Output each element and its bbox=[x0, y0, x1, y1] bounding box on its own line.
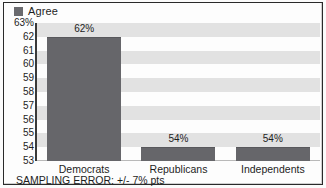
bar[interactable] bbox=[236, 147, 310, 161]
y-axis-tick-label: 58 bbox=[23, 87, 34, 97]
y-axis-tick-label: 62 bbox=[23, 32, 34, 42]
y-axis-tick-label: 56 bbox=[23, 115, 34, 125]
bars-layer: 62%54%54% bbox=[37, 23, 320, 161]
plot-wrapper: 63%62616059585756555453 62%54%54% bbox=[6, 21, 320, 163]
sampling-error-note: SAMPLING ERROR: +/- 7% pts bbox=[16, 174, 165, 186]
legend-swatch-icon bbox=[14, 7, 23, 16]
bar[interactable] bbox=[47, 37, 121, 161]
bar-value-label: 54% bbox=[168, 134, 188, 144]
y-axis-tick-label: 59 bbox=[23, 73, 34, 83]
bar-chart-figure: Agree 63%62616059585756555453 62%54%54% … bbox=[0, 0, 326, 188]
y-axis-tick-label: 54 bbox=[23, 142, 34, 152]
bar-slot: 62% bbox=[37, 23, 131, 161]
y-axis-tick-label: 55 bbox=[23, 128, 34, 138]
bar-slot: 54% bbox=[226, 23, 320, 161]
y-axis-tick-label: 53 bbox=[23, 156, 34, 166]
y-axis-tick-label: 63% bbox=[14, 18, 34, 28]
bar[interactable] bbox=[141, 147, 215, 161]
bar-slot: 54% bbox=[131, 23, 225, 161]
bar-value-label: 62% bbox=[74, 24, 94, 34]
y-axis-tick-label: 60 bbox=[23, 59, 34, 69]
bar-value-label: 54% bbox=[263, 134, 283, 144]
y-axis-tick-label: 61 bbox=[23, 46, 34, 56]
y-axis: 63%62616059585756555453 bbox=[6, 21, 34, 163]
y-axis-tick-label: 57 bbox=[23, 101, 34, 111]
legend-item-label: Agree bbox=[28, 6, 58, 17]
x-axis-category-label: Independents bbox=[241, 163, 305, 175]
